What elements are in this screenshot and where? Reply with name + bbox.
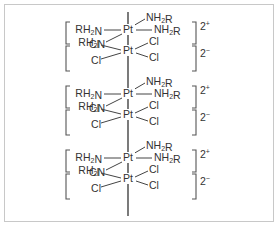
left-bracket-cation — [66, 86, 70, 108]
right-bracket-cation — [192, 86, 196, 108]
ligand-cl: Cl — [149, 51, 159, 63]
platinum-atom: Pt — [123, 172, 133, 184]
ligand-cl: Cl — [149, 163, 159, 175]
ligand-rh2n: RH2N — [75, 23, 102, 37]
ligand-rh2n: RH2N — [75, 87, 102, 101]
bond-pt-cl — [136, 117, 148, 121]
platinum-atom: Pt — [123, 23, 133, 35]
platinum-chain-diagram: PtNH2RNH2RRH2NRH2NPtClClClCl2+2−PtNH2RNH… — [0, 0, 278, 230]
left-bracket-cation — [66, 150, 70, 172]
ligand-cl: Cl — [91, 182, 101, 194]
bond-pt-cl — [135, 43, 148, 49]
bond-pt-cl — [136, 53, 148, 57]
ligand-cl: Cl — [89, 166, 99, 178]
ligand-rh2n: RH2N — [75, 151, 102, 165]
bond-pt-cl — [101, 53, 121, 59]
bond-pt-cl — [135, 107, 148, 113]
bond-pt-n — [106, 162, 122, 170]
cation-charge-label: 2+ — [200, 20, 210, 32]
anion-charge-label: 2− — [200, 175, 210, 187]
platinum-atom: Pt — [123, 108, 133, 120]
platinum-atom: Pt — [123, 87, 133, 99]
repeat-unit-3: PtNH2RNH2RRH2NRH2NPtClClClCl2+2− — [66, 139, 210, 199]
bond-pt-n — [106, 34, 122, 42]
right-bracket-anion — [192, 46, 196, 71]
ligand-cl: Cl — [89, 38, 99, 50]
left-bracket-cation — [66, 22, 70, 44]
bond-pt-n — [106, 98, 122, 106]
ligand-cl: Cl — [89, 102, 99, 114]
bond-pt-cl — [101, 181, 121, 187]
bond-pt-cl — [101, 117, 121, 123]
right-bracket-anion — [192, 174, 196, 199]
ligand-cl: Cl — [149, 115, 159, 127]
left-bracket-anion — [66, 46, 70, 71]
left-bracket-anion — [66, 110, 70, 135]
ligand-cl: Cl — [91, 54, 101, 66]
repeat-unit-1: PtNH2RNH2RRH2NRH2NPtClClClCl2+2− — [66, 11, 210, 71]
cation-charge-label: 2+ — [200, 84, 210, 96]
ligand-cl: Cl — [91, 118, 101, 130]
platinum-atom: Pt — [123, 44, 133, 56]
repeat-unit-2: PtNH2RNH2RRH2NRH2NPtClClClCl2+2− — [66, 75, 210, 135]
bond-pt-cl — [135, 171, 148, 177]
right-bracket-cation — [192, 22, 196, 44]
anion-charge-label: 2− — [200, 47, 210, 59]
left-bracket-anion — [66, 174, 70, 199]
anion-charge-label: 2− — [200, 111, 210, 123]
cation-charge-label: 2+ — [200, 148, 210, 160]
bond-pt-cl — [136, 181, 148, 185]
ligand-cl: Cl — [149, 179, 159, 191]
platinum-atom: Pt — [123, 151, 133, 163]
ligand-cl: Cl — [149, 35, 159, 47]
right-bracket-anion — [192, 110, 196, 135]
right-bracket-cation — [192, 150, 196, 172]
ligand-cl: Cl — [149, 99, 159, 111]
